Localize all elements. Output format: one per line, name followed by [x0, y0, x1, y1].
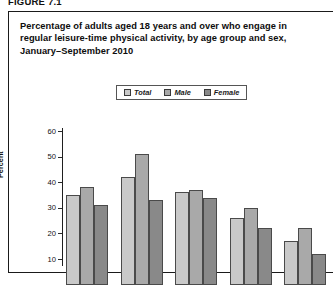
bar-4-male	[244, 208, 258, 285]
bar-5-male	[298, 228, 312, 284]
bar-1-male	[80, 187, 94, 284]
bar-1-total	[66, 195, 80, 285]
bar-3-male	[189, 190, 203, 285]
bar-2-male	[135, 154, 149, 285]
bar-3-female	[203, 198, 217, 285]
bar-2-female	[149, 200, 163, 284]
bar-5-total	[284, 241, 298, 285]
bar-4-female	[258, 228, 272, 284]
bar-3-total	[175, 192, 189, 284]
bar-1-female	[94, 205, 108, 284]
bar-4-total	[230, 218, 244, 285]
bar-5-female	[312, 254, 326, 285]
bar-2-total	[121, 177, 135, 285]
